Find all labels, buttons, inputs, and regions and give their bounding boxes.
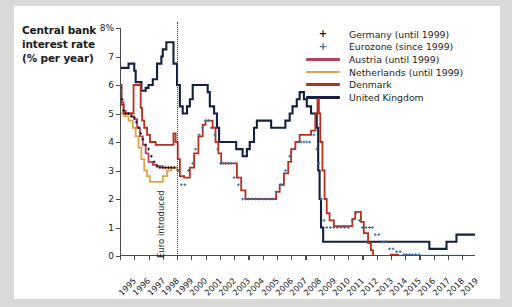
x-tick xyxy=(334,256,335,260)
x-tick xyxy=(434,256,435,260)
x-tick xyxy=(448,256,449,260)
y-tick-label: 6 xyxy=(108,80,114,90)
x-tick xyxy=(120,256,121,260)
x-tick xyxy=(462,256,463,260)
y-axis xyxy=(120,28,121,256)
series-line-netherlands-until-1999- xyxy=(120,114,177,182)
x-tick xyxy=(377,256,378,260)
x-tick xyxy=(234,256,235,260)
x-tick xyxy=(405,256,406,260)
x-tick xyxy=(220,256,221,260)
x-tick xyxy=(348,256,349,260)
y-tick xyxy=(116,57,120,58)
x-tick xyxy=(177,256,178,260)
x-tick xyxy=(291,256,292,260)
chart-title-line-2: interest rate xyxy=(22,37,126,51)
y-tick xyxy=(116,171,120,172)
y-tick xyxy=(116,199,120,200)
chart-figure: Central bank interest rate (% per year) … xyxy=(14,6,500,299)
series-layer xyxy=(120,28,475,256)
y-tick xyxy=(116,142,120,143)
y-tick-label: 7 xyxy=(108,52,114,62)
x-tick xyxy=(419,256,420,260)
x-tick xyxy=(248,256,249,260)
x-tick xyxy=(134,256,135,260)
series-line-denmark xyxy=(120,85,475,256)
x-tick xyxy=(320,256,321,260)
y-tick-label: 2 xyxy=(108,194,114,204)
plot-area: 012345678% 19951996199719981999200020012… xyxy=(120,28,475,256)
euro-introduced-label: Euro introduced xyxy=(156,190,166,258)
x-tick xyxy=(362,256,363,260)
series-line-austria-until-1999- xyxy=(120,85,177,171)
y-tick-label: 0 xyxy=(108,251,114,261)
x-tick xyxy=(191,256,192,260)
x-axis xyxy=(120,255,475,256)
euro-introduced-line xyxy=(177,22,178,256)
y-tick-label: 1 xyxy=(108,223,114,233)
x-tick xyxy=(305,256,306,260)
y-tick xyxy=(116,228,120,229)
y-tick-label: 8% xyxy=(100,23,114,33)
y-tick-label: 5 xyxy=(108,109,114,119)
y-tick xyxy=(116,85,120,86)
x-tick xyxy=(263,256,264,260)
x-tick xyxy=(391,256,392,260)
x-tick xyxy=(277,256,278,260)
y-tick-label: 3 xyxy=(108,166,114,176)
x-tick xyxy=(206,256,207,260)
x-tick xyxy=(149,256,150,260)
y-tick xyxy=(116,114,120,115)
y-tick-label: 4 xyxy=(108,137,114,147)
y-tick xyxy=(116,28,120,29)
